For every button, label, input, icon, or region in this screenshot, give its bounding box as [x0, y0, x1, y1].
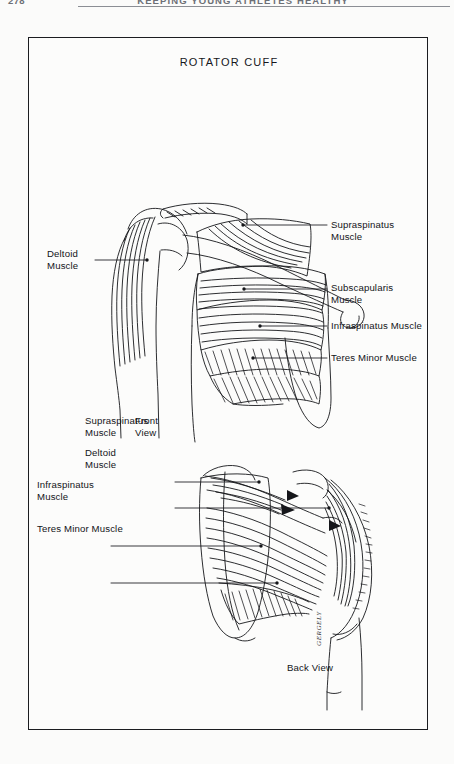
- anatomy-illustration: [29, 38, 429, 731]
- header-rule: [78, 6, 450, 7]
- label-anterior-supraspinatus: Supraspinatus Muscle: [331, 219, 427, 242]
- label-posterior-infraspinatus: Infraspinatus Muscle: [37, 479, 94, 502]
- posterior-view-art: [200, 465, 373, 710]
- artist-signature: GERGELY: [315, 611, 323, 646]
- page-root: { "page": { "folio": "278", "running_tit…: [0, 0, 454, 764]
- label-anterior-teres-minor: Teres Minor Muscle: [331, 352, 417, 364]
- anterior-view-art: [112, 203, 364, 442]
- label-posterior-deltoid: Deltoid Muscle: [85, 447, 116, 470]
- caption-back-view: Back View: [287, 662, 333, 674]
- label-posterior-teres-minor: Teres Minor Muscle: [37, 523, 123, 535]
- page-folio: 278: [8, 0, 25, 6]
- running-head: 278 KEEPING YOUNG ATHLETES HEALTHY: [0, 0, 454, 12]
- label-anterior-deltoid: Deltoid Muscle: [47, 248, 78, 271]
- label-posterior-supraspinatus: Supraspinatus Muscle: [85, 415, 148, 438]
- figure-frame: ROTATOR CUFF: [28, 37, 428, 730]
- label-anterior-subscapularis: Subscapularis Muscle: [331, 282, 393, 305]
- label-anterior-infraspinatus: Infraspinatus Muscle: [331, 320, 422, 332]
